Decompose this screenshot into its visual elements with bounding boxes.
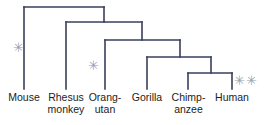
phylogenetic-tree-figure: Mouse Rhesus monkey Orang- utan Gorilla …: [0, 0, 265, 125]
asterisk-marker-tip: ✳✳: [234, 74, 258, 87]
tree-branches: [0, 0, 265, 125]
asterisk-marker-root: ✳: [13, 41, 24, 54]
taxon-label-human: Human: [208, 92, 256, 104]
asterisk-marker-mid: ✳: [88, 59, 99, 72]
taxon-label-orangutan: Orang- utan: [81, 92, 129, 115]
taxon-label-chimpanzee: Chimp- anzee: [164, 92, 213, 115]
